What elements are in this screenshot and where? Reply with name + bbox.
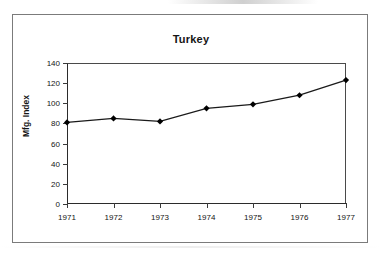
y-axis-tick-label: 140	[47, 59, 60, 68]
data-series-line	[67, 63, 346, 204]
data-point-marker	[110, 115, 116, 121]
y-axis-tick-label: 20	[51, 179, 60, 188]
x-axis-tick-label: 1971	[58, 213, 76, 222]
data-point-marker	[64, 119, 70, 125]
scan-artifact-bottom	[0, 246, 381, 248]
plot-area: 020406080100120140 197119721973197419751…	[67, 63, 346, 204]
y-axis-tick-label: 80	[51, 119, 60, 128]
chart-title: Turkey	[13, 33, 369, 45]
x-axis-tick	[346, 203, 347, 208]
data-point-marker	[296, 92, 302, 98]
x-axis-tick-label: 1976	[291, 213, 309, 222]
x-axis-tick-label: 1972	[105, 213, 123, 222]
y-axis-title: Mfg. Index	[21, 81, 31, 151]
data-point-marker	[343, 77, 349, 83]
x-axis-tick-label: 1974	[198, 213, 216, 222]
chart-figure-frame: Turkey Mfg. Index 020406080100120140 197…	[12, 14, 368, 243]
y-axis-tick-label: 100	[47, 99, 60, 108]
x-axis-tick-label: 1975	[244, 213, 262, 222]
data-point-marker	[157, 118, 163, 124]
scan-artifact-top	[168, 0, 318, 4]
y-axis-tick-label: 0	[56, 200, 60, 209]
data-point-marker	[203, 105, 209, 111]
y-axis-tick-label: 60	[51, 139, 60, 148]
x-axis-tick-label: 1977	[337, 213, 355, 222]
y-axis-tick-label: 120	[47, 79, 60, 88]
x-axis-tick-label: 1973	[151, 213, 169, 222]
y-axis-tick-label: 40	[51, 159, 60, 168]
data-point-marker	[250, 101, 256, 107]
series-polyline	[67, 80, 346, 122]
